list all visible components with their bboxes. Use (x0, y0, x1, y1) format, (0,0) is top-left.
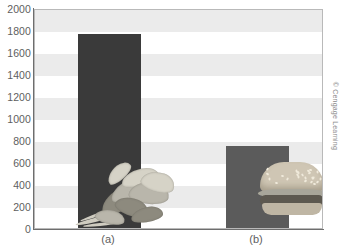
y-axis-tick-1200: 1200 (1, 92, 31, 103)
background-band-0 (35, 10, 322, 32)
x-axis-label-b: (b) (226, 233, 286, 246)
bar-b (226, 146, 289, 228)
copyright-credit: © Cengage Learning (331, 82, 339, 150)
y-axis-tick-labels: 2000180016001400120010008006004002000 (0, 0, 31, 248)
y-axis-tick-0: 0 (1, 224, 31, 235)
y-axis-tick-1400: 1400 (1, 70, 31, 81)
y-axis-tick-600: 600 (1, 158, 31, 169)
x-axis-label-a: (a) (78, 233, 138, 246)
y-axis-tick-400: 400 (1, 180, 31, 191)
bar-chart-figure: 2000180016001400120010008006004002000 (0, 0, 340, 248)
y-axis-tick-1600: 1600 (1, 48, 31, 59)
y-axis-line (33, 8, 34, 230)
plot-area (34, 9, 323, 229)
y-axis-tick-200: 200 (1, 202, 31, 213)
y-axis-tick-800: 800 (1, 136, 31, 147)
y-axis-tick-1800: 1800 (1, 26, 31, 37)
y-axis-tick-1000: 1000 (1, 114, 31, 125)
y-axis-tick-2000: 2000 (1, 4, 31, 15)
bar-a (78, 34, 141, 228)
x-axis-line (33, 229, 324, 230)
